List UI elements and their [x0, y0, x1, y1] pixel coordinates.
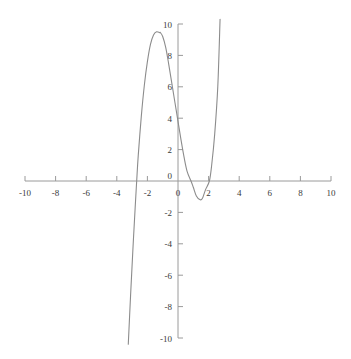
x-tick-label: -6	[82, 188, 90, 198]
y-tick-label: 2	[168, 145, 173, 155]
x-tick-label: 4	[237, 188, 242, 198]
x-tick-label: -2	[144, 188, 152, 198]
y-tick-label: -4	[165, 239, 173, 249]
y-tick-label: -8	[165, 302, 173, 312]
x-tick-label: -8	[52, 188, 60, 198]
cubic-function-plot: -10-8-6-4-20246810-10-8-6-4-22468100	[0, 0, 351, 359]
y-tick-label: 4	[168, 114, 173, 124]
y-tick-label: -10	[160, 334, 172, 344]
x-tick-label: 10	[327, 188, 337, 198]
x-tick-label: 6	[268, 188, 273, 198]
x-tick-label: -10	[19, 188, 31, 198]
chart-canvas: -10-8-6-4-20246810-10-8-6-4-22468100	[0, 0, 351, 359]
x-tick-label: 0	[176, 188, 181, 198]
y-tick-label: -2	[165, 208, 173, 218]
x-tick-label: 2	[206, 188, 211, 198]
x-tick-label: -4	[113, 188, 121, 198]
origin-zero-label: 0	[168, 171, 173, 181]
y-tick-label: -6	[165, 271, 173, 281]
curve-cubic-curve	[128, 19, 220, 344]
x-tick-label: 8	[298, 188, 303, 198]
y-tick-label: 10	[163, 20, 173, 30]
